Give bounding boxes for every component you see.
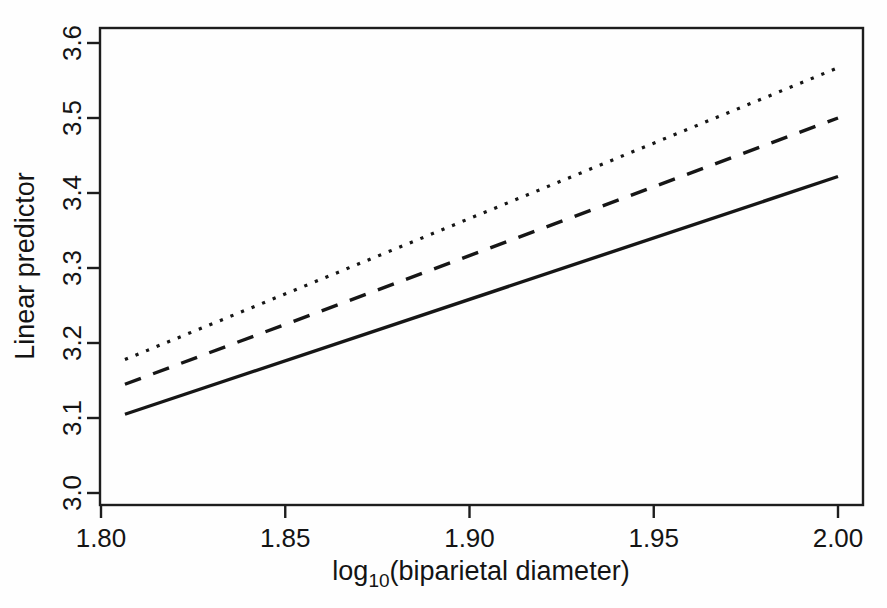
y-axis-title: Linear predictor (10, 172, 40, 360)
line-chart: 3.03.13.23.33.43.53.6 1.801.851.901.952.… (0, 0, 887, 608)
series-solid (125, 177, 838, 415)
y-tick-label: 3.0 (57, 475, 87, 511)
y-tick-label: 3.4 (57, 175, 87, 211)
y-tick-label: 3.3 (57, 250, 87, 286)
chart-figure: 3.03.13.23.33.43.53.6 1.801.851.901.952.… (0, 0, 887, 608)
x-axis-ticks (101, 505, 838, 518)
x-tick-label: 1.80 (76, 523, 127, 553)
series-dashed (125, 118, 838, 384)
x-axis-title-subscript: 10 (368, 570, 389, 591)
x-tick-label: 1.90 (444, 523, 495, 553)
y-axis-tick-labels: 3.03.13.23.33.43.53.6 (57, 25, 87, 511)
y-tick-label: 3.6 (57, 25, 87, 61)
x-tick-label: 2.00 (813, 523, 864, 553)
y-tick-label: 3.1 (57, 400, 87, 436)
plot-frame (100, 28, 863, 505)
x-axis-title-base: log (332, 556, 368, 586)
y-tick-label: 3.2 (57, 325, 87, 361)
y-tick-label: 3.5 (57, 100, 87, 136)
x-axis-title-rest: (biparietal diameter) (390, 556, 630, 586)
y-axis-ticks (87, 43, 100, 493)
x-axis-title: log10(biparietal diameter) (332, 556, 629, 591)
x-tick-label: 1.85 (260, 523, 311, 553)
x-axis-tick-labels: 1.801.851.901.952.00 (76, 523, 864, 553)
data-series-group (125, 68, 838, 415)
x-tick-label: 1.95 (628, 523, 679, 553)
